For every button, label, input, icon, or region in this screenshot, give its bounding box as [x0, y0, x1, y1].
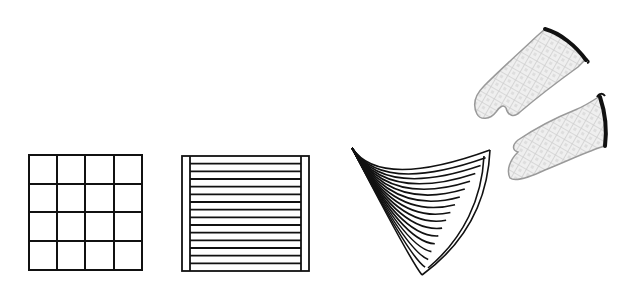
grid-pot-holder [29, 155, 142, 270]
illustration-canvas [0, 0, 638, 299]
striped-pot-holder [182, 156, 309, 271]
oven-mitt-upper [475, 29, 589, 118]
fan-shape [352, 148, 490, 275]
